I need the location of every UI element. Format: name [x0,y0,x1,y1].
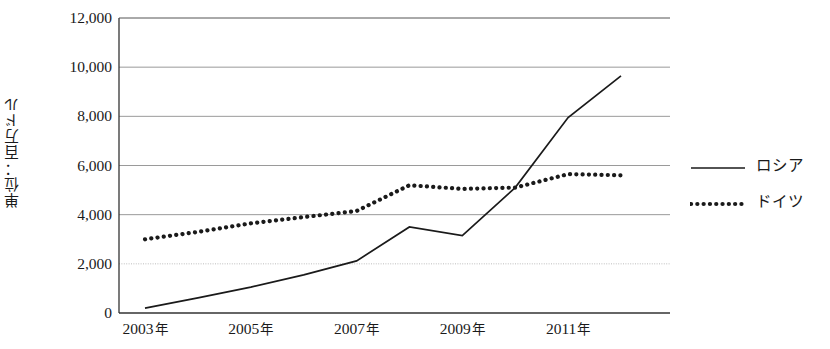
x-axis-tick-label: 2009年 [412,318,512,341]
legend-item[interactable]: ロシア [690,148,828,184]
legend-dotted-line-icon [690,196,746,208]
legend-item-label: ドイツ [756,194,804,210]
x-axis-tick-labels: 2003年2005年2007年2009年2011年 [0,318,830,348]
gridlines [119,67,670,264]
legend-item-label: ロシア [756,158,804,174]
x-axis-tick-label: 2007年 [307,318,407,341]
legend-solid-line-icon [690,160,746,172]
series-line [145,174,621,239]
legend-item[interactable]: ドイツ [690,184,828,220]
line-chart: 単位：百万ドル 12,00010,0008,0006,0004,0002,000… [0,0,830,349]
x-axis-tick-label: 2011年 [518,318,618,341]
series-lines [145,76,621,308]
x-axis-tick-label: 2003年 [95,318,195,341]
x-axis-tick-label: 2005年 [201,318,301,341]
legend: ロシアドイツ [690,148,828,220]
series-line [145,76,621,308]
